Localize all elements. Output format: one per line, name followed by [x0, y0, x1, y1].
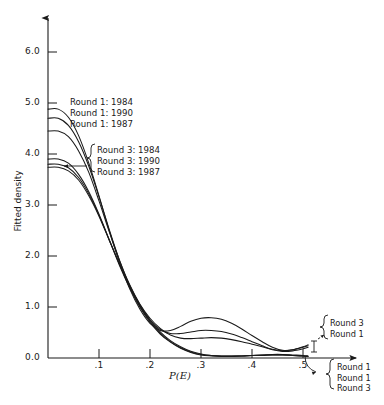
brace-round3-left — [87, 144, 95, 172]
brace-right-lower — [326, 359, 334, 389]
curve-round-1-1990 — [48, 118, 308, 351]
y-tick-label-4: 4.0 — [8, 148, 40, 158]
y-tick-label-6: 6.0 — [8, 46, 40, 56]
annotation-right-upper-1: Round 3 — [330, 318, 364, 329]
x-axis-label: P(E) — [150, 370, 210, 381]
annotation-round3-1984: Round 3: 1984 — [97, 145, 160, 156]
annotation-round1-1984: Round 1: 1984 — [70, 97, 133, 108]
x-tick-label-03: .3 — [189, 360, 213, 370]
annotation-round1-1987: Round 1: 1987 — [70, 119, 133, 130]
y-tick-label-5: 5.0 — [8, 97, 40, 107]
x-tick-label-04: .4 — [240, 360, 264, 370]
annotation-round3-1990: Round 3: 1990 — [97, 156, 160, 167]
chart-figure: 6.0 5.0 4.0 3.0 2.0 1.0 0.0 .1 .2 .3 .4 … — [0, 0, 384, 405]
y-axis-ticks — [48, 52, 57, 307]
annotation-leaders — [64, 144, 334, 389]
annotation-round1-1990: Round 1: 1990 — [70, 108, 133, 119]
annotation-right-lower-1: Round 1 — [337, 362, 371, 373]
y-tick-label-1: 1.0 — [8, 301, 40, 311]
annotation-right-lower-group: Round 1 Round 1 Round 3 — [337, 362, 371, 394]
annotation-right-lower-3: Round 3 — [337, 383, 371, 394]
curve-round-1-1987 — [48, 131, 308, 352]
annotation-round3-group: Round 3: 1984 Round 3: 1990 Round 3: 198… — [97, 145, 160, 178]
chart-plot-area — [0, 0, 384, 405]
y-axis-label: Fitted density — [13, 161, 23, 241]
x-tick-label-02: .2 — [138, 360, 162, 370]
y-tick-label-2: 2.0 — [8, 250, 40, 260]
curve-round-1-1984 — [48, 109, 308, 351]
data-curves — [48, 109, 308, 357]
annotation-right-upper-2: Round 1 — [330, 329, 364, 340]
x-tick-label-01: .1 — [87, 360, 111, 370]
curve-round-3-1984 — [48, 159, 308, 357]
x-tick-label-05: .5 — [291, 360, 315, 370]
annotation-right-upper-group: Round 3 Round 1 — [330, 318, 364, 339]
annotation-right-lower-2: Round 1 — [337, 373, 371, 384]
y-tick-label-0: 0.0 — [8, 352, 40, 362]
annotation-round1-group: Round 1: 1984 Round 1: 1990 Round 1: 198… — [70, 97, 133, 130]
annotation-round3-1987: Round 3: 1987 — [97, 167, 160, 178]
